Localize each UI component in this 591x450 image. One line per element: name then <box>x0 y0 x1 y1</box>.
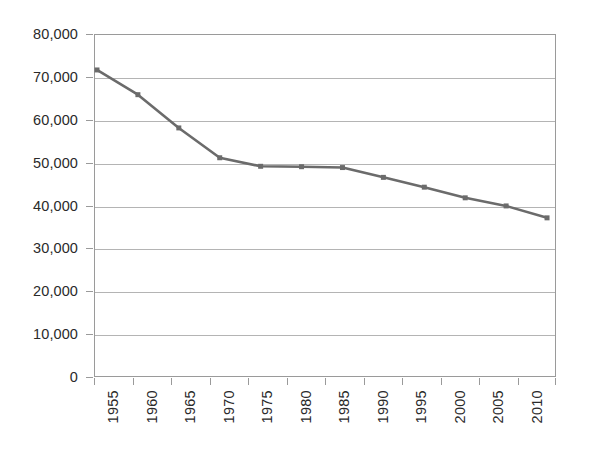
y-axis-tick-mark <box>86 291 93 292</box>
data-point-marker <box>381 175 386 180</box>
x-axis-tick-mark <box>133 378 134 385</box>
x-axis-tick-mark <box>402 378 403 385</box>
y-axis-tick-label: 40,000 <box>33 198 78 214</box>
y-axis-tick-mark <box>86 163 93 164</box>
x-axis-tick-label: 2000 <box>452 390 468 423</box>
data-point-marker <box>299 164 304 169</box>
data-point-marker <box>422 185 427 190</box>
x-axis-tick-mark <box>479 378 480 385</box>
y-axis-tick-mark <box>86 377 93 378</box>
y-axis-tick-label: 70,000 <box>33 69 78 85</box>
data-point-marker <box>258 164 263 169</box>
x-axis-tick-mark <box>441 378 442 385</box>
x-axis-tick-label: 1990 <box>375 390 391 423</box>
y-axis-tick-mark <box>86 77 93 78</box>
line-chart-figure: 010,00020,00030,00040,00050,00060,00070,… <box>0 0 591 450</box>
y-axis-tick-label: 20,000 <box>33 283 78 299</box>
data-point-marker <box>176 125 181 130</box>
data-point-marker <box>217 155 222 160</box>
y-axis-tick-mark <box>86 34 93 35</box>
x-axis-tick-mark <box>325 378 326 385</box>
data-point-marker <box>545 215 550 220</box>
x-axis-tick-label: 1965 <box>182 390 198 423</box>
x-axis-tick-mark <box>94 378 95 385</box>
y-axis-tick-label: 0 <box>70 369 78 385</box>
y-axis-tick-label: 60,000 <box>33 112 78 128</box>
data-point-marker <box>463 195 468 200</box>
y-axis-tick-label: 80,000 <box>33 26 78 42</box>
y-axis-tick-mark <box>86 248 93 249</box>
data-point-marker <box>135 92 140 97</box>
x-axis-tick-label: 2010 <box>529 390 545 423</box>
y-axis-tick-mark <box>86 120 93 121</box>
x-axis: 1955196019651970197519801985199019952000… <box>94 378 556 450</box>
x-axis-tick-label: 1975 <box>259 390 275 423</box>
x-axis-tick-label: 1980 <box>298 390 314 423</box>
x-axis-tick-label: 1995 <box>413 390 429 423</box>
data-point-marker <box>95 67 100 72</box>
x-axis-tick-mark <box>555 378 556 385</box>
y-axis-tick-mark <box>86 206 93 207</box>
series-polyline <box>97 70 547 218</box>
y-axis-tick-label: 10,000 <box>33 326 78 342</box>
x-axis-tick-mark <box>248 378 249 385</box>
y-axis-tick-label: 30,000 <box>33 240 78 256</box>
y-axis-tick-label: 50,000 <box>33 155 78 171</box>
x-axis-tick-label: 1955 <box>105 390 121 423</box>
x-axis-tick-mark <box>287 378 288 385</box>
series-line <box>95 35 555 376</box>
x-axis-tick-mark <box>210 378 211 385</box>
data-point-marker <box>504 203 509 208</box>
y-axis: 010,00020,00030,00040,00050,00060,00070,… <box>0 34 86 377</box>
x-axis-tick-mark <box>171 378 172 385</box>
x-axis-tick-label: 1985 <box>336 390 352 423</box>
y-axis-tick-mark <box>86 334 93 335</box>
x-axis-tick-label: 1960 <box>144 390 160 423</box>
x-axis-tick-label: 1970 <box>221 390 237 423</box>
x-axis-tick-label: 2005 <box>490 390 506 423</box>
plot-area <box>94 34 556 377</box>
x-axis-tick-mark <box>518 378 519 385</box>
x-axis-tick-mark <box>364 378 365 385</box>
data-point-marker <box>340 165 345 170</box>
